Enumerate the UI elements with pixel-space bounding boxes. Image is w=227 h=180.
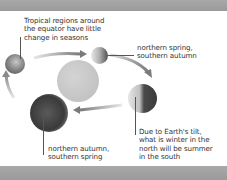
leader-line-tilt <box>135 97 136 135</box>
arrow-head-icon <box>80 50 87 58</box>
label-tropical: Tropical regions around the equator have… <box>24 17 104 42</box>
sun <box>57 60 99 102</box>
leader-line-autumn <box>43 115 44 155</box>
earth-top-globe <box>91 47 108 64</box>
label-northern-spring: northern spring, southern autumn <box>137 44 197 61</box>
label-northern-autumn: northern autumn, southern spring <box>48 145 109 162</box>
label-tilt: Due to Earth's tilt, what is winter in t… <box>139 128 213 162</box>
leader-line-tropical <box>20 37 21 59</box>
bottom-band <box>0 166 227 180</box>
earth-right-globe <box>128 84 157 113</box>
earth-left-globe <box>5 54 25 74</box>
earth-bottom-globe <box>30 94 68 132</box>
leader-line-spring <box>108 55 134 56</box>
